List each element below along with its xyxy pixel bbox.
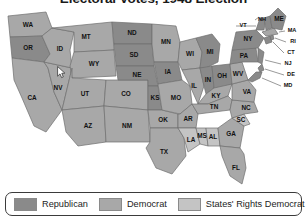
state-ri [270, 35, 274, 40]
label-leader-ct [273, 42, 284, 53]
state-md [248, 72, 262, 82]
state-label-ia: IA [165, 68, 172, 75]
state-label-ma: MA [288, 27, 297, 33]
us-map-svg: WAORCANVIDMTWYUTCOAZNMNDSDNEKSOKTXMNIAMO… [0, 6, 307, 191]
state-label-me: ME [274, 15, 284, 22]
state-label-ny: NY [244, 35, 254, 42]
state-label-ok: OK [158, 116, 168, 123]
state-label-id: ID [57, 45, 64, 52]
legend-item-republican: Republican [14, 198, 88, 211]
state-label-co: CO [121, 90, 131, 97]
label-leader-de [265, 69, 284, 75]
mouse-cursor-icon [57, 66, 66, 79]
state-label-ms: MS [197, 132, 207, 139]
state-label-mi: MI [206, 48, 213, 55]
state-label-ne: NE [133, 71, 143, 78]
state-label-nd: ND [127, 29, 137, 36]
state-label-ks: KS [151, 94, 161, 101]
state-label-az: AZ [84, 122, 93, 129]
state-label-il: IL [191, 82, 197, 89]
state-label-or: OR [23, 44, 33, 51]
state-label-mn: MN [161, 38, 171, 45]
state-label-mt: MT [81, 33, 90, 40]
state-label-sd: SD [130, 51, 139, 58]
legend-item-democrat: Democrat [99, 198, 167, 211]
state-label-md: MD [284, 82, 293, 88]
state-label-nv: NV [54, 84, 64, 91]
state-label-va: VA [243, 88, 252, 95]
state-label-la: LA [187, 136, 196, 143]
legend-item-states-rights-democrat: States' Rights Democrat [178, 198, 305, 211]
state-label-wi: WI [186, 50, 194, 57]
state-label-in: IN [205, 76, 212, 83]
legend-label-democrat: Democrat [127, 199, 167, 209]
state-label-fl: FL [232, 164, 240, 171]
legend-label-republican: Republican [42, 199, 88, 209]
state-label-tx: TX [160, 148, 169, 155]
state-label-ky: KY [212, 92, 222, 99]
legend-label-states-rights-democrat: States' Rights Democrat [206, 199, 305, 209]
state-label-ri: RI [290, 38, 296, 44]
state-label-wa: WA [23, 21, 34, 28]
state-label-ga: GA [226, 130, 236, 137]
state-label-nc: NC [241, 104, 251, 111]
state-label-wy: WY [89, 60, 100, 67]
electoral-map-figure: Electoral Votes, 1948 Election WAORCANVI… [0, 0, 307, 219]
state-label-ca: CA [27, 94, 37, 101]
legend-swatch-democrat [99, 198, 122, 211]
legend-swatch-republican [14, 198, 37, 211]
state-label-tn: TN [210, 103, 219, 110]
label-leader-ma [279, 31, 285, 32]
state-label-nj: NJ [284, 60, 291, 66]
label-leader-nj [265, 60, 281, 64]
label-leader-md [262, 78, 281, 86]
state-label-nm: NM [122, 122, 132, 129]
state-label-nh: NH [258, 16, 266, 22]
state-label-oh: OH [217, 72, 227, 79]
state-label-vt: VT [239, 22, 247, 28]
state-label-al: AL [209, 133, 218, 140]
state-label-sc: SC [237, 116, 246, 123]
state-nj [258, 48, 264, 64]
legend: Republican Democrat States' Rights Democ… [5, 192, 302, 216]
legend-swatch-states-rights-democrat [178, 198, 201, 211]
label-leader-ri [275, 38, 286, 42]
state-label-wv: WV [233, 70, 244, 77]
state-label-ar: AR [183, 115, 193, 122]
state-label-ct: CT [287, 49, 295, 55]
state-label-ut: UT [81, 90, 90, 97]
state-de [258, 64, 264, 72]
state-label-mo: MO [171, 94, 181, 101]
state-label-de: DE [287, 71, 295, 77]
state-label-pa: PA [240, 52, 249, 59]
us-map: WAORCANVIDMTWYUTCOAZNMNDSDNEKSOKTXMNIAMO… [0, 6, 307, 191]
